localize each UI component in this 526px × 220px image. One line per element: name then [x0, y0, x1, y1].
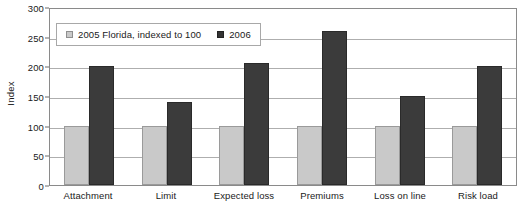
- legend-label: 2005 Florida, indexed to 100: [78, 29, 201, 40]
- y-axis-tick-labels: 050100150200250300: [18, 8, 44, 186]
- bar: [244, 63, 269, 185]
- bar: [219, 126, 244, 185]
- x-axis-tick-label: Attachment: [49, 190, 127, 201]
- bar: [452, 126, 477, 185]
- bar-chart: Index 050100150200250300 AttachmentLimit…: [0, 0, 526, 220]
- x-axis-tick-label: Premiums: [283, 190, 361, 201]
- y-axis-tick-label: 100: [28, 121, 44, 132]
- y-axis-tick-mark: [45, 156, 49, 157]
- y-axis-tick-label: 150: [28, 92, 44, 103]
- legend-swatch-icon: [66, 31, 73, 38]
- legend-swatch-icon: [217, 31, 224, 38]
- bar: [64, 126, 89, 185]
- x-axis-tick-label: Risk load: [439, 190, 517, 201]
- y-axis-tick-label: 300: [28, 3, 44, 14]
- legend-entry: 2005 Florida, indexed to 100: [66, 29, 201, 40]
- bar: [375, 126, 400, 185]
- legend-entry: 2006: [217, 29, 251, 40]
- x-axis-tick-label: Limit: [127, 190, 205, 201]
- y-axis-tick-mark: [45, 67, 49, 68]
- y-axis-tick-label: 200: [28, 62, 44, 73]
- y-axis-title: Index: [2, 0, 18, 186]
- y-axis-tick-label: 250: [28, 32, 44, 43]
- chart-legend: 2005 Florida, indexed to 1002006: [56, 23, 261, 46]
- y-axis-title-text: Index: [5, 81, 16, 105]
- y-axis-tick-mark: [45, 37, 49, 38]
- bar: [477, 66, 502, 185]
- bar: [167, 102, 192, 185]
- bar: [400, 96, 425, 185]
- y-axis-tick-mark: [45, 186, 49, 187]
- bar: [322, 31, 347, 185]
- bar-group: [283, 9, 361, 185]
- x-axis-tick-label: Loss on line: [361, 190, 439, 201]
- x-axis-tick-labels: AttachmentLimitExpected lossPremiumsLoss…: [49, 190, 517, 201]
- y-axis-tick-label: 0: [39, 181, 44, 192]
- y-axis-tick-mark: [45, 97, 49, 98]
- bar-group: [361, 9, 439, 185]
- bar: [89, 66, 114, 185]
- y-axis-tick-mark: [45, 126, 49, 127]
- legend-label: 2006: [229, 29, 251, 40]
- x-axis-tick-label: Expected loss: [205, 190, 283, 201]
- bar: [142, 126, 167, 185]
- y-axis-tick-label: 50: [33, 151, 44, 162]
- bar-group: [438, 9, 516, 185]
- bar: [297, 126, 322, 185]
- y-axis-tick-mark: [45, 8, 49, 9]
